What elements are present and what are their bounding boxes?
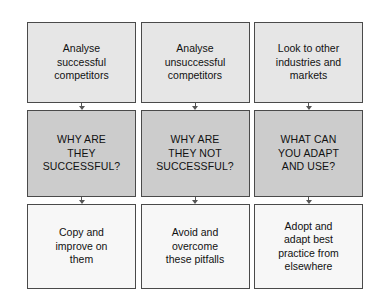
connector-col2-analyse-to-question xyxy=(141,103,250,110)
connector-col2-question-to-action xyxy=(141,197,250,204)
flowchart-column-other-industries: Look to other industries and markets WHA… xyxy=(254,22,363,290)
connector-col3-question-to-action xyxy=(254,197,363,204)
node-label: Avoid and overcome these pitfalls xyxy=(166,226,224,266)
connector-col1-question-to-action xyxy=(27,197,136,204)
flowchart-columns: Analyse successful competitors WHY ARE T… xyxy=(27,22,363,290)
down-arrow-icon xyxy=(79,200,85,204)
flowchart-column-successful-competitors: Analyse successful competitors WHY ARE T… xyxy=(27,22,136,290)
node-label: WHY ARE THEY SUCCESSFUL? xyxy=(43,133,121,173)
node-label: WHY ARE THEY NOT SUCCESSFUL? xyxy=(156,133,234,173)
down-arrow-icon xyxy=(306,200,312,204)
connector-col3-analyse-to-question xyxy=(254,103,363,110)
down-arrow-icon xyxy=(306,106,312,110)
node-label: WHAT CAN YOU ADAPT AND USE? xyxy=(278,133,339,173)
node-action-copy-and-improve[interactable]: Copy and improve on them xyxy=(27,204,136,289)
flowchart-column-unsuccessful-competitors: Analyse unsuccessful competitors WHY ARE… xyxy=(141,22,250,290)
down-arrow-icon xyxy=(192,200,198,204)
down-arrow-icon xyxy=(79,106,85,110)
down-arrow-icon xyxy=(192,106,198,110)
connector-col1-analyse-to-question xyxy=(27,103,136,110)
node-question-why-are-they-not-successful[interactable]: WHY ARE THEY NOT SUCCESSFUL? xyxy=(141,110,250,197)
node-label: Look to other industries and markets xyxy=(276,42,341,82)
node-analyse-unsuccessful-competitors[interactable]: Analyse unsuccessful competitors xyxy=(141,22,250,103)
node-label: Adopt and adapt best practice from elsew… xyxy=(278,220,339,274)
flowchart-diagram: Analyse successful competitors WHY ARE T… xyxy=(0,0,387,307)
node-label: Analyse unsuccessful competitors xyxy=(165,42,226,82)
node-question-why-are-they-successful[interactable]: WHY ARE THEY SUCCESSFUL? xyxy=(27,110,136,197)
node-analyse-successful-competitors[interactable]: Analyse successful competitors xyxy=(27,22,136,103)
node-action-avoid-and-overcome[interactable]: Avoid and overcome these pitfalls xyxy=(141,204,250,289)
node-question-what-can-you-adapt-and-use[interactable]: WHAT CAN YOU ADAPT AND USE? xyxy=(254,110,363,197)
node-action-adopt-and-adapt-best-practice[interactable]: Adopt and adapt best practice from elsew… xyxy=(254,204,363,289)
node-label: Copy and improve on them xyxy=(56,226,108,266)
node-label: Analyse successful competitors xyxy=(54,42,108,82)
node-analyse-look-to-other-industries[interactable]: Look to other industries and markets xyxy=(254,22,363,103)
